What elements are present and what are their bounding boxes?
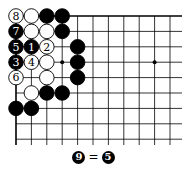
white-stone bbox=[24, 24, 39, 39]
equals-sign: = bbox=[88, 150, 98, 164]
caption-black-stone-9: 9 bbox=[72, 151, 85, 164]
black-stone bbox=[40, 9, 55, 24]
black-stone bbox=[55, 86, 70, 101]
black-stone bbox=[55, 24, 70, 39]
white-stone bbox=[40, 70, 55, 85]
black-stone bbox=[9, 101, 24, 116]
move-number: 5 bbox=[13, 41, 20, 54]
go-board: 87512346 bbox=[0, 0, 187, 148]
move-number: 4 bbox=[28, 56, 35, 69]
black-stone bbox=[55, 9, 70, 24]
white-stone bbox=[40, 55, 55, 70]
white-stone bbox=[40, 24, 55, 39]
black-stone bbox=[70, 40, 85, 55]
white-stone bbox=[24, 86, 39, 101]
black-stone bbox=[40, 86, 55, 101]
move-caption: 9 = 5 bbox=[0, 148, 187, 166]
move-number: 6 bbox=[13, 71, 20, 84]
move-number: 2 bbox=[43, 41, 50, 54]
star-point bbox=[153, 60, 157, 64]
move-number: 8 bbox=[13, 10, 20, 23]
black-stone bbox=[70, 55, 85, 70]
move-number: 7 bbox=[13, 25, 20, 38]
white-stone bbox=[24, 9, 39, 24]
star-point bbox=[60, 60, 64, 64]
move-number: 1 bbox=[28, 41, 35, 54]
black-stone bbox=[24, 101, 39, 116]
black-stone bbox=[70, 70, 85, 85]
caption-black-stone-5: 5 bbox=[102, 151, 115, 164]
move-number: 3 bbox=[13, 56, 20, 69]
